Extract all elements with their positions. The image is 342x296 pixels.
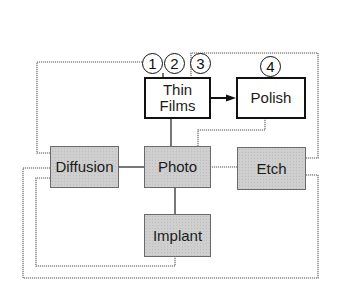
- node-thin-films-label-1: Thin: [163, 82, 192, 98]
- node-thin-films: Thin Films: [144, 77, 211, 119]
- node-photo: Photo: [144, 146, 211, 188]
- node-etch-label: Etch: [256, 161, 286, 177]
- step-marker-1: 1: [142, 53, 163, 74]
- node-diffusion: Diffusion: [50, 146, 119, 188]
- node-polish-label: Polish: [251, 90, 292, 106]
- step-marker-1-label: 1: [148, 55, 156, 72]
- step-marker-4: 4: [260, 56, 281, 77]
- node-photo-label: Photo: [158, 159, 197, 175]
- node-thin-films-label-2: Films: [160, 98, 196, 114]
- node-diffusion-label: Diffusion: [55, 159, 113, 175]
- step-marker-4-label: 4: [266, 58, 274, 75]
- node-implant-label: Implant: [153, 228, 202, 244]
- node-polish: Polish: [236, 77, 306, 119]
- node-implant: Implant: [144, 214, 211, 257]
- step-marker-2: 2: [164, 53, 185, 74]
- step-marker-2-label: 2: [170, 55, 178, 72]
- step-marker-3: 3: [190, 53, 211, 74]
- step-marker-3-label: 3: [196, 55, 204, 72]
- node-etch: Etch: [237, 147, 306, 190]
